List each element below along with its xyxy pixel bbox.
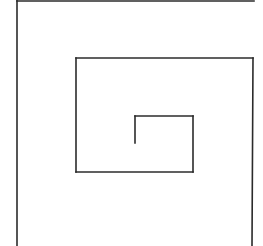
spiral-diagram: [0, 0, 263, 246]
spiral-lines: [17, 0, 254, 246]
line-outer-right: [252, 58, 253, 246]
